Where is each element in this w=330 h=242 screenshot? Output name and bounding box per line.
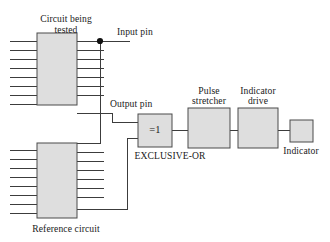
reference-left-pins [10,150,37,213]
dut-left-pins [10,41,37,104]
label-exclusive-or-caption: EXCLUSIVE-OR [134,151,205,162]
block-indicator [290,120,313,142]
label-xor-symbol: =1 [149,124,160,136]
input-pin-junction-dot [97,38,103,44]
block-reference-circuit [37,143,77,218]
label-reference-circuit: Reference circuit [32,224,99,235]
block-pulse-stretcher [188,108,230,148]
label-pulse-stretcher-line2: stretcher [192,96,226,107]
label-indicator: Indicator [283,146,319,157]
label-circuit-being-tested-line2: tested [55,25,78,36]
blocks-group [37,33,313,218]
reference-output-to-xor-input-b [77,138,138,209]
diagram-canvas: Circuit being tested Input pin Output pi… [0,0,330,242]
block-circuit-being-tested [37,33,77,105]
label-indicator-drive-line2: drive [248,96,268,107]
reference-right-pins [77,152,104,197]
input-pin-bus-to-reference [77,41,100,143]
label-input-pin: Input pin [117,27,153,38]
output-pin-to-xor-input-a [112,113,138,122]
label-output-pin: Output pin [110,99,152,110]
block-indicator-drive [238,108,278,148]
circuit-diagram [0,0,330,242]
